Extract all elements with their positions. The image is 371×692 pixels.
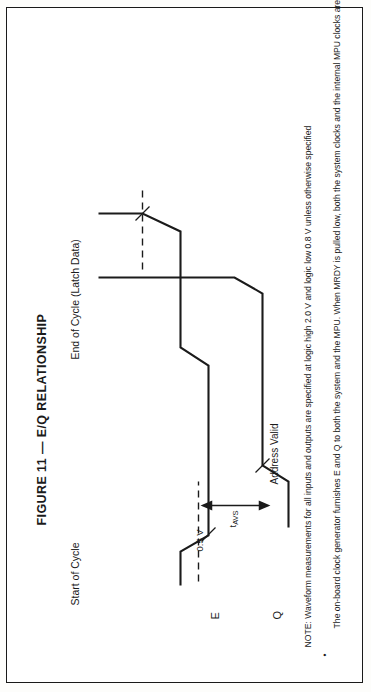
waveform-q (98, 277, 288, 527)
start-of-cycle-label: Start of Cycle (68, 542, 80, 605)
address-valid-label: Address Valid (268, 423, 279, 484)
rotated-page-content: FIGURE 11 — E/Q RELATIONSHIP Start of Cy… (12, 13, 357, 677)
figure-title: FIGURE 11 — E/Q RELATIONSHIP (34, 313, 48, 525)
footnote-part-1: The on-board clock generator furnishes E… (331, 0, 341, 628)
voltage-level-label: 0.5 V (193, 529, 204, 551)
scanned-page: FIGURE 11 — E/Q RELATIONSHIP Start of Cy… (0, 0, 371, 692)
footnote-block: •The on-board clock generator furnishes … (318, 35, 355, 647)
bullet-icon: • (318, 653, 330, 656)
waveform-e (98, 213, 208, 585)
signal-label-e: E (208, 612, 220, 619)
note-text: NOTE: Waveform measurements for all inpu… (302, 37, 314, 647)
end-of-cycle-label: End of Cycle (Latch Data) (68, 239, 80, 359)
tavs-subscript: AVS (230, 510, 239, 524)
tavs-measurement-arrow (202, 501, 268, 509)
tavs-base: t (226, 524, 237, 527)
page-border: FIGURE 11 — E/Q RELATIONSHIP Start of Cy… (6, 7, 363, 683)
tavs-label: tAVS (226, 510, 237, 527)
signal-label-q: Q (270, 610, 282, 619)
